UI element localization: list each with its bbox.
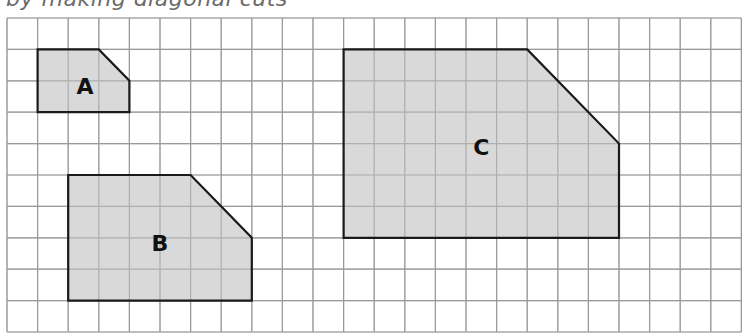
shape-label: A bbox=[77, 74, 94, 99]
shape-label: B bbox=[152, 231, 169, 256]
shape-label: C bbox=[473, 135, 489, 160]
shapes-layer: ABC bbox=[7, 18, 741, 332]
grid-diagram: ABC bbox=[0, 0, 742, 334]
